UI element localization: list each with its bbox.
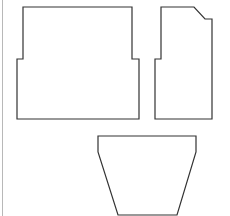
- right-chamfered-panel: [155, 7, 212, 119]
- left-stepped-panel: [17, 7, 139, 119]
- bottom-trapezoid-panel: [98, 136, 196, 215]
- pattern-diagram: [0, 0, 230, 216]
